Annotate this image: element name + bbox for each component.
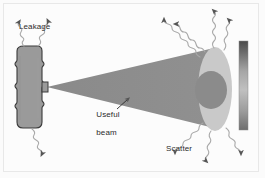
diagram-canvas: Leakage Useful beam Scatter xyxy=(0,0,265,178)
scatter-ray-upper-left xyxy=(164,20,200,57)
scatter-ray-up-right xyxy=(224,20,230,50)
label-scatter: Scatter xyxy=(166,144,192,153)
label-useful-beam-line1: Useful xyxy=(96,110,119,119)
leakage-ray-3 xyxy=(32,129,42,154)
collimator-port xyxy=(42,82,48,92)
useful-beam-cone xyxy=(47,48,214,128)
scatter-ray-down-right xyxy=(226,128,241,153)
x-ray-tube-housing xyxy=(15,46,44,128)
label-leakage: Leakage xyxy=(19,22,50,31)
image-receptor xyxy=(239,41,248,130)
scatter-ray-down xyxy=(205,131,211,161)
internal-organ xyxy=(195,71,227,109)
label-useful-beam-line2: beam xyxy=(96,128,116,137)
label-useful-beam: Useful beam xyxy=(87,101,120,146)
scatter-ray-up xyxy=(213,11,216,48)
